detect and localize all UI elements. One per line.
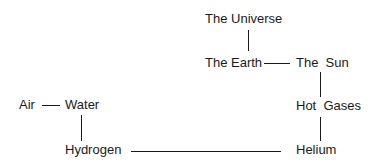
node-hydrogen: Hydrogen — [65, 142, 121, 157]
node-the-earth: The Earth — [205, 55, 262, 70]
edge-universe-earth — [248, 30, 249, 51]
edge-hydrogen-helium — [131, 151, 281, 152]
node-the-sun: The Sun — [296, 55, 349, 70]
node-hot-gases: Hot Gases — [296, 98, 361, 113]
edge-air-water — [42, 105, 60, 106]
node-helium: Helium — [296, 142, 336, 157]
diagram: The Universe The Earth The Sun Hot Gases… — [0, 0, 377, 168]
edge-sun-hot-gases — [320, 72, 321, 97]
node-air: Air — [19, 97, 35, 112]
edge-hot-gases-helium — [320, 117, 321, 141]
edge-water-hydrogen — [81, 115, 82, 141]
edge-earth-sun — [264, 63, 290, 64]
node-the-universe: The Universe — [205, 11, 282, 26]
node-water: Water — [65, 97, 99, 112]
